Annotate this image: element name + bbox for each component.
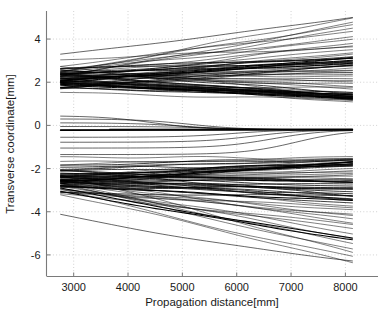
chart-plot: 300040005000600070008000 420-2-4-6 Propa… [0,0,385,327]
y-axis-title: Transverse coordinate[mm] [4,74,16,214]
x-tick-label: 4000 [116,281,140,293]
x-tick-label: 7000 [279,281,303,293]
x-tick-label: 8000 [333,281,357,293]
y-tick-label: 4 [34,33,40,45]
y-tick-label: 2 [34,76,40,88]
x-tick-label: 6000 [224,281,248,293]
x-tick-label: 3000 [61,281,85,293]
y-tick-label: -4 [31,206,41,218]
y-tick-label: -2 [31,163,41,175]
y-tick-label: 0 [34,119,40,131]
x-axis-title: Propagation distance[mm] [145,296,279,308]
figure-container: 300040005000600070008000 420-2-4-6 Propa… [0,0,385,327]
y-tick-label: -6 [31,249,41,261]
x-tick-label: 5000 [170,281,194,293]
